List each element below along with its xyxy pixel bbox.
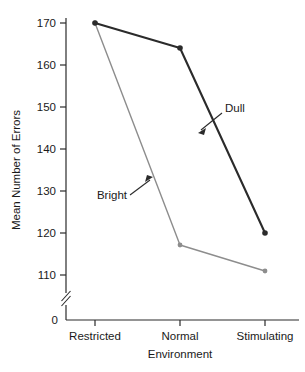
- y-tick-labels: 170 160 150 140 130 120 110 0: [37, 17, 58, 326]
- y-tick-label-170: 170: [37, 17, 56, 29]
- y-tick-label-zero: 0: [52, 314, 58, 326]
- x-tick-labels: Restricted Normal Stimulating: [69, 330, 293, 342]
- y-axis-break-icon: [62, 291, 71, 306]
- y-tick-label-120: 120: [37, 227, 56, 239]
- y-tick-label-150: 150: [37, 101, 56, 113]
- series-bright-point-stimulating: [263, 269, 268, 274]
- series-dull: [92, 20, 268, 236]
- annotation-dull: Dull: [198, 102, 245, 135]
- annotation-bright-label: Bright: [97, 189, 128, 201]
- y-tick-label-110: 110: [38, 269, 56, 281]
- line-chart-plot: 170 160 150 140 130 120 110 0 Restricted…: [0, 0, 305, 372]
- series-bright-line: [95, 23, 265, 271]
- x-tick-marks: [95, 320, 265, 326]
- axis-lines: [66, 18, 299, 320]
- annotation-bright-leader: [130, 180, 150, 195]
- y-tick-label-130: 130: [37, 185, 56, 197]
- series-bright: [93, 21, 268, 274]
- series-dull-point-restricted: [92, 20, 98, 26]
- series-dull-line: [95, 23, 265, 233]
- series-dull-point-stimulating: [262, 230, 268, 236]
- y-axis-title: Mean Number of Errors: [10, 110, 22, 230]
- x-tick-label-restricted: Restricted: [69, 330, 121, 342]
- x-tick-label-normal: Normal: [161, 330, 198, 342]
- series-bright-point-normal: [178, 243, 183, 248]
- x-axis-title: Environment: [148, 348, 213, 360]
- chart-figure: 170 160 150 140 130 120 110 0 Restricted…: [0, 0, 305, 372]
- y-tick-label-160: 160: [37, 59, 56, 71]
- series-dull-point-normal: [177, 45, 183, 51]
- y-tick-marks: [60, 23, 66, 275]
- annotation-dull-label: Dull: [225, 102, 245, 114]
- x-tick-label-stimulating: Stimulating: [237, 330, 294, 342]
- y-tick-label-140: 140: [37, 143, 56, 155]
- annotation-bright: Bright: [97, 175, 153, 201]
